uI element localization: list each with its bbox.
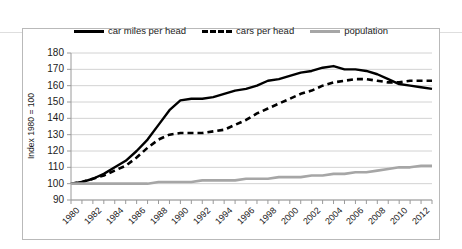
series-line-car-miles-per-head (71, 66, 432, 184)
series-line-population (71, 166, 432, 184)
series-line-cars-per-head (71, 79, 432, 184)
plot-area (0, 0, 462, 249)
chart-container: car miles per head cars per head populat… (0, 0, 462, 249)
